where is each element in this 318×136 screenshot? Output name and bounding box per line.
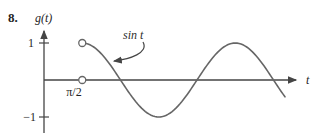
function-graph-figure: 8. g(t) t 1 −1 π/2 sin t — [0, 0, 318, 136]
graph-canvas: 8. g(t) t 1 −1 π/2 sin t — [0, 0, 318, 136]
x-tick-pi-over-2-label: π/2 — [66, 85, 81, 99]
x-axis-label: t — [306, 73, 310, 87]
open-point-circle — [79, 77, 86, 84]
y-tick-neg1-label: −1 — [23, 110, 36, 124]
curve-label: sin t — [123, 28, 144, 42]
curve-annotation-arrow — [114, 42, 144, 61]
open-point-circle — [79, 40, 86, 47]
y-tick-1-label: 1 — [28, 36, 34, 50]
y-axis-label: g(t) — [35, 11, 52, 25]
problem-number: 8. — [8, 10, 18, 25]
open-points-group — [79, 40, 86, 84]
